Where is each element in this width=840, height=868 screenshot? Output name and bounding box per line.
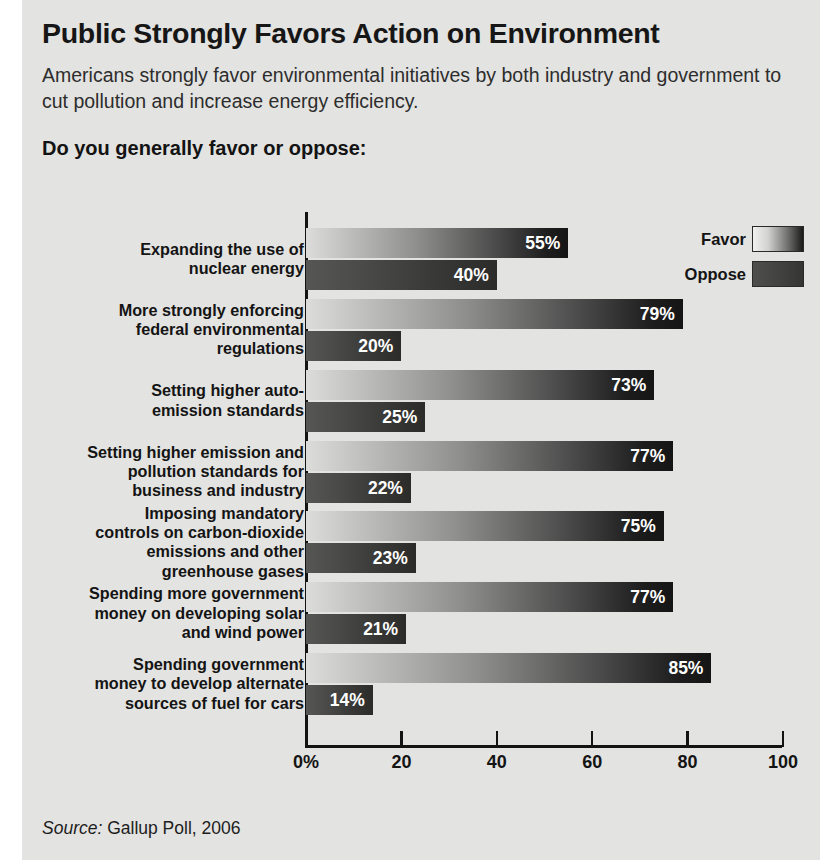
category-label: Spending more government money on develo… — [32, 584, 304, 642]
bar-favor: 77% — [306, 441, 673, 471]
bar-favor: 75% — [306, 511, 664, 541]
legend-label-oppose: Oppose — [685, 265, 746, 284]
bar-value-oppose: 20% — [358, 335, 393, 356]
bar-favor: 55% — [306, 228, 568, 258]
chart-header: Public Strongly Favors Action on Environ… — [22, 0, 820, 160]
x-axis-line — [305, 745, 782, 748]
bar-oppose: 22% — [306, 473, 411, 503]
x-axis-tick — [496, 731, 499, 747]
x-axis-tick — [686, 731, 689, 747]
plot-area: Expanding the use of nuclear energy55%40… — [22, 212, 820, 792]
bar-group: Imposing mandatory controls on carbon-di… — [22, 511, 820, 573]
page-title: Public Strongly Favors Action on Environ… — [22, 0, 820, 49]
chart-subtitle: Americans strongly favor environmental i… — [22, 49, 820, 115]
bar-group: More strongly enforcing federal environm… — [22, 299, 820, 361]
category-label: Setting higher auto- emission standards — [32, 381, 304, 420]
x-axis-tick — [400, 731, 403, 747]
bar-oppose: 23% — [306, 543, 416, 573]
category-label: More strongly enforcing federal environm… — [32, 301, 304, 359]
x-axis-tick-label: 0% — [293, 752, 319, 773]
bar-value-oppose: 14% — [330, 690, 365, 711]
category-label: Expanding the use of nuclear energy — [32, 240, 304, 279]
bar-value-favor: 73% — [611, 374, 646, 395]
bar-oppose: 20% — [306, 331, 401, 361]
x-axis-tick-label: 60 — [582, 752, 602, 773]
bar-value-favor: 75% — [621, 516, 656, 537]
legend-label-favor: Favor — [701, 230, 746, 249]
bar-group: Setting higher auto- emission standards7… — [22, 370, 820, 432]
bar-oppose: 25% — [306, 402, 425, 432]
legend-swatch-oppose-icon — [752, 261, 804, 287]
category-label: Spending government money to develop alt… — [32, 655, 304, 713]
source-note: Source: Gallup Poll, 2006 — [42, 818, 240, 839]
x-axis-tick-label: 20 — [391, 752, 411, 773]
source-prefix: Source: — [42, 818, 102, 838]
x-axis-tick — [591, 731, 594, 747]
x-axis-tick — [782, 731, 785, 747]
chart-legend: Favor Oppose — [642, 226, 804, 296]
bar-favor: 85% — [306, 653, 711, 683]
bar-oppose: 21% — [306, 614, 406, 644]
legend-item-oppose: Oppose — [642, 261, 804, 291]
x-axis-tick-label: 100 — [768, 752, 798, 773]
category-label: Setting higher emission and pollution st… — [32, 443, 304, 501]
bar-value-oppose: 40% — [454, 265, 489, 286]
source-text: Gallup Poll, 2006 — [102, 818, 240, 838]
bar-value-favor: 85% — [668, 658, 703, 679]
chart-question: Do you generally favor or oppose: — [22, 115, 820, 160]
bar-oppose: 14% — [306, 685, 373, 715]
bar-favor: 77% — [306, 582, 673, 612]
bar-value-favor: 55% — [525, 233, 560, 254]
legend-item-favor: Favor — [642, 226, 804, 256]
legend-swatch-favor-icon — [752, 226, 804, 252]
x-axis-tick-label: 80 — [678, 752, 698, 773]
bar-favor: 79% — [306, 299, 683, 329]
bar-favor: 73% — [306, 370, 654, 400]
bar-value-oppose: 25% — [382, 406, 417, 427]
bar-oppose: 40% — [306, 260, 497, 290]
x-axis-tick-label: 40 — [487, 752, 507, 773]
bar-value-oppose: 21% — [363, 619, 398, 640]
category-label: Imposing mandatory controls on carbon-di… — [32, 504, 304, 581]
bar-value-favor: 77% — [630, 445, 665, 466]
bar-group: Spending more government money on develo… — [22, 582, 820, 644]
bar-group: Setting higher emission and pollution st… — [22, 441, 820, 503]
bar-group: Spending government money to develop alt… — [22, 653, 820, 715]
bar-value-favor: 79% — [640, 303, 675, 324]
bar-value-favor: 77% — [630, 587, 665, 608]
chart-figure: Public Strongly Favors Action on Environ… — [22, 0, 820, 860]
bar-value-oppose: 23% — [373, 548, 408, 569]
bar-value-oppose: 22% — [368, 477, 403, 498]
